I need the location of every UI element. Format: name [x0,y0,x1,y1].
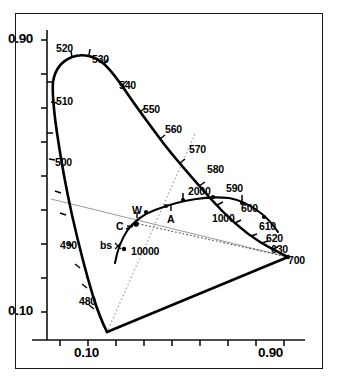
purple-line [107,257,288,332]
wavelength-label-550: 550 [143,104,160,115]
y-axis [41,30,47,340]
y-axis-min-label: 0.10 [8,304,33,318]
wavelength-label-600: 600 [241,203,258,214]
cie-chromaticity-figure: 0.90 0.10 0.10 0.90 520 530 540 550 560 … [0,0,338,388]
chromaticity-plot [0,0,338,388]
wavelength-label-490: 490 [60,240,77,251]
spectral-locus-ticks [47,49,278,309]
point-label-A: A [167,214,174,225]
wavelength-label-560: 560 [165,124,182,135]
white-point-marker [133,221,139,227]
bs-point-marker [122,247,126,251]
temperature-label-10000: 10000 [131,246,159,257]
wavelength-label-520: 520 [56,43,73,54]
wavelength-label-540: 540 [119,80,136,91]
point-label-bs: bs [100,240,112,251]
wavelength-label-580: 580 [207,164,224,175]
wavelength-label-480: 480 [79,296,96,307]
x-axis-max-label: 0.90 [258,346,283,360]
wavelength-label-590: 590 [226,183,243,194]
temperature-label-2000: 2000 [188,186,211,197]
spectral-locus-curve [53,55,288,332]
wavelength-label-700: 700 [288,255,305,266]
wavelength-label-620: 620 [266,233,283,244]
wavelength-label-500: 500 [55,157,72,168]
x-axis-min-label: 0.10 [74,346,99,360]
wavelength-label-510: 510 [56,96,73,107]
y-axis-max-label: 0.90 [8,32,33,46]
wavelength-label-570: 570 [189,144,206,155]
wavelength-label-530: 530 [92,54,109,65]
point-label-C: C [116,221,123,232]
wavelength-label-610: 610 [259,221,276,232]
temperature-label-1000: 1000 [212,213,235,224]
point-label-W: W [132,205,142,216]
wavelength-label-630: 630 [271,244,288,255]
